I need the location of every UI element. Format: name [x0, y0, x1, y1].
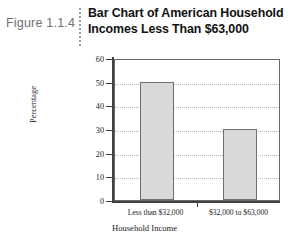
y-axis-tick-label: 30	[4, 126, 104, 135]
y-axis-tick-label: 50	[4, 78, 104, 87]
x-axis-category-label: Less than $32,000	[128, 208, 183, 217]
bar	[223, 129, 257, 200]
x-axis-title: Household Income	[0, 223, 289, 233]
y-axis-tick-label: 40	[4, 102, 104, 111]
y-axis-tick	[106, 177, 112, 178]
figure-header: Figure 1.1.4 Bar Chart of American House…	[0, 6, 289, 46]
y-axis-tick	[106, 130, 112, 131]
vertical-dotted-rule-icon	[79, 8, 81, 46]
x-axis-category-label: $32,000 to $63,000	[209, 208, 268, 217]
plot-area	[114, 59, 280, 201]
bar-chart: 0102030405060 Percentage Less than $32,0…	[0, 48, 289, 245]
bar	[140, 82, 174, 200]
y-axis-tick-label: 60	[4, 55, 104, 64]
chart-title: Bar Chart of American Household Incomes …	[88, 6, 286, 37]
chart-title-line-1: Bar Chart of American Household	[88, 6, 283, 20]
chart-title-line-2: Incomes Less Than $63,000	[88, 22, 249, 36]
figure-number-label: Figure 1.1.4	[6, 16, 75, 30]
y-axis-tick	[106, 106, 112, 107]
x-axis-tick	[197, 201, 198, 207]
y-axis-tick	[106, 83, 112, 84]
y-axis-tick-label: 0	[4, 197, 104, 206]
y-axis-tick	[106, 59, 112, 60]
x-axis-spine	[112, 201, 280, 203]
y-axis-spine	[112, 57, 114, 203]
y-axis-title: Percentage	[29, 50, 38, 160]
y-axis-tick	[106, 154, 112, 155]
y-axis-tick-label: 20	[4, 149, 104, 158]
y-axis-tick-label: 10	[4, 173, 104, 182]
